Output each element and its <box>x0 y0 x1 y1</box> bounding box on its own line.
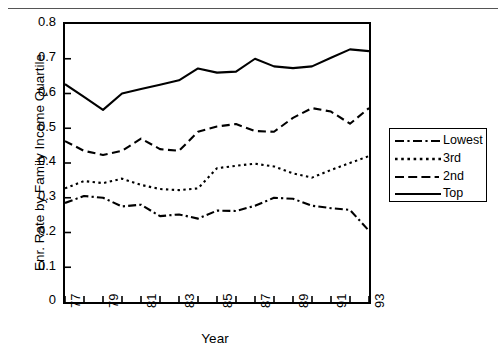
chart-legend: Lowest 3rd 2nd Top <box>389 128 487 202</box>
x-axis-title: Year <box>63 331 367 346</box>
page-top-rule <box>8 8 498 9</box>
x-tick-label: 87 <box>258 294 273 308</box>
legend-swatch-dashed-line <box>394 172 442 182</box>
legend-label: 3rd <box>442 152 461 165</box>
series-line-2nd <box>65 108 369 155</box>
series-line-3rd <box>65 156 369 190</box>
legend-label: 2nd <box>442 170 464 183</box>
y-axis-title: Enr. Rate by Family Income Quartile <box>32 38 47 288</box>
legend-swatch-dash-dot-line <box>394 136 442 146</box>
x-tick-label: 79 <box>106 294 121 308</box>
x-tick-label: 93 <box>372 294 387 308</box>
x-tick-label: 85 <box>220 294 235 308</box>
legend-swatch-dotted-line <box>394 154 442 164</box>
x-tick-label: 81 <box>144 294 159 308</box>
plot-area <box>63 22 371 304</box>
series-line-top <box>65 49 369 109</box>
y-tick-label: 0.8 <box>38 15 56 28</box>
y-axis-ticks <box>65 59 71 268</box>
legend-label: Top <box>442 187 463 200</box>
x-tick-label: 91 <box>334 294 349 308</box>
y-axis-tick-labels: 0.8 0.7 0.6 0.5 0.4 0.3 0.2 0.1 0 <box>0 0 56 354</box>
series-lines <box>65 49 369 230</box>
x-tick-label: 89 <box>296 294 311 308</box>
x-tick-label: 83 <box>182 294 197 308</box>
x-tick-label: 77 <box>68 294 83 308</box>
chart-page: 0.8 0.7 0.6 0.5 0.4 0.3 0.2 0.1 0 Enr. R… <box>0 0 502 354</box>
legend-item-3rd: 3rd <box>394 150 486 167</box>
legend-label: Lowest <box>442 134 483 147</box>
plot-svg <box>65 24 369 302</box>
legend-item-top: Top <box>394 185 486 202</box>
series-line-lowest <box>65 196 369 231</box>
legend-item-2nd: 2nd <box>394 168 486 185</box>
legend-swatch-solid-line <box>394 189 442 199</box>
legend-item-lowest: Lowest <box>394 132 486 149</box>
y-tick-label: 0 <box>49 293 56 306</box>
